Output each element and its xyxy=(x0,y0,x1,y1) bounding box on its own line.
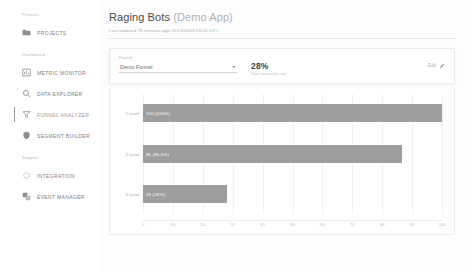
conversion-rate-value: 28% xyxy=(251,61,286,71)
sidebar-item-projects[interactable]: PROJECTS xyxy=(0,22,100,43)
sidebar-item-label: INTEGRATION xyxy=(37,173,75,179)
last-updated-text: Last updated 76 minutes ago 05/13/2018 0… xyxy=(109,28,455,33)
pencil-icon xyxy=(439,63,445,69)
chart-x-tick: 50 xyxy=(290,222,294,227)
sidebar-item-data-explorer[interactable]: DATA EXPLORER xyxy=(0,83,100,104)
chart-bar[interactable]: 100 (100%) xyxy=(143,104,442,122)
chart-x-tick: 30 xyxy=(230,222,234,227)
gridline xyxy=(442,94,443,214)
chart-x-tick: 40 xyxy=(260,222,264,227)
main-content: Raging Bots (Demo App) Last updated 76 m… xyxy=(100,0,469,270)
chart-x-tick: 0 xyxy=(142,222,144,227)
chart-x-tick: 70 xyxy=(350,222,354,227)
chart-bar-row: 3 Level28 (28%) xyxy=(143,185,442,203)
funnel-chart-card: 1 Level100 (100%)2 Level86 (86.6%)3 Leve… xyxy=(109,88,455,235)
chart-bar-value: 86 (86.6%) xyxy=(146,151,169,156)
search-icon xyxy=(22,89,31,98)
shield-icon xyxy=(22,131,31,140)
funnel-icon xyxy=(22,110,31,119)
chart-bar[interactable]: 28 (28%) xyxy=(143,185,227,203)
page-title: Raging Bots (Demo App) xyxy=(109,11,455,24)
edit-button-label: Edit xyxy=(428,63,436,68)
sidebar-section-support: Support INTEGRATION EVENT MANAGER xyxy=(0,155,100,207)
chart-x-axis xyxy=(143,220,442,221)
chart-bar-row: 1 Level100 (100%) xyxy=(143,104,442,122)
sidebar: Projects PROJECTS Dashboard METRIC MONIT… xyxy=(0,0,100,270)
chevron-down-icon xyxy=(232,66,236,68)
layers-icon xyxy=(22,192,31,201)
chart-bar-value: 100 (100%) xyxy=(146,111,170,116)
sidebar-item-label: FUNNEL ANALYZER xyxy=(37,112,89,118)
chart-x-tick: 60 xyxy=(320,222,324,227)
sidebar-item-label: PROJECTS xyxy=(37,30,66,36)
chart-row-label: 2 Level xyxy=(125,151,139,156)
funnel-analyzer-page: Projects PROJECTS Dashboard METRIC MONIT… xyxy=(0,0,469,270)
folder-icon xyxy=(22,28,31,37)
sidebar-item-event-manager[interactable]: EVENT MANAGER xyxy=(0,186,100,207)
funnel-select[interactable]: Demo Funnel xyxy=(119,60,237,73)
funnel-selector-card: Funnel Demo Funnel 28% Total conversion … xyxy=(109,48,455,84)
sidebar-section-label: Support xyxy=(0,155,100,160)
page-title-suffix: (Demo App) xyxy=(173,11,233,23)
chart-x-tick: 80 xyxy=(380,222,384,227)
chart-bar-row: 2 Level86 (86.6%) xyxy=(143,145,442,163)
sidebar-section-dashboard: Dashboard METRIC MONITOR DATA EXPLORER xyxy=(0,52,100,146)
integration-icon xyxy=(22,171,31,180)
conversion-metric: 28% Total conversion rate xyxy=(251,54,286,77)
chart-x-tick: 20 xyxy=(201,222,205,227)
sidebar-item-funnel-analyzer[interactable]: FUNNEL ANALYZER xyxy=(0,104,100,125)
chart-bar-value: 28 (28%) xyxy=(146,191,165,196)
sidebar-section-label: Projects xyxy=(0,12,100,17)
chart-x-tick: 10 xyxy=(171,222,175,227)
chart-x-tick: 90 xyxy=(410,222,414,227)
funnel-select-wrapper: Funnel Demo Funnel xyxy=(119,54,237,73)
sidebar-item-label: METRIC MONITOR xyxy=(37,70,86,76)
conversion-rate-caption: Total conversion rate xyxy=(251,72,286,76)
edit-button[interactable]: Edit xyxy=(428,63,445,69)
title-divider xyxy=(109,38,455,39)
funnel-chart-plot: 1 Level100 (100%)2 Level86 (86.6%)3 Leve… xyxy=(143,94,442,214)
funnel-select-value: Demo Funnel xyxy=(120,64,152,70)
chart-x-tick: 100 xyxy=(439,222,446,227)
chart-bars: 1 Level100 (100%)2 Level86 (86.6%)3 Leve… xyxy=(143,94,442,214)
bar-chart-icon xyxy=(22,68,31,77)
chart-bar[interactable]: 86 (86.6%) xyxy=(143,145,402,163)
sidebar-item-label: EVENT MANAGER xyxy=(37,194,85,200)
chart-row-label: 3 Level xyxy=(125,191,139,196)
sidebar-item-label: SEGMENT BUILDER xyxy=(37,133,90,139)
sidebar-section-projects: Projects PROJECTS xyxy=(0,12,100,43)
sidebar-item-label: DATA EXPLORER xyxy=(37,91,83,97)
sidebar-item-metric-monitor[interactable]: METRIC MONITOR xyxy=(0,62,100,83)
chart-x-tick-labels: 0102030405060708090100 xyxy=(143,222,442,231)
sidebar-item-integration[interactable]: INTEGRATION xyxy=(0,165,100,186)
chart-row-label: 1 Level xyxy=(125,111,139,116)
sidebar-item-segment-builder[interactable]: SEGMENT BUILDER xyxy=(0,125,100,146)
page-title-text: Raging Bots xyxy=(109,11,170,23)
sidebar-section-label: Dashboard xyxy=(0,52,100,57)
